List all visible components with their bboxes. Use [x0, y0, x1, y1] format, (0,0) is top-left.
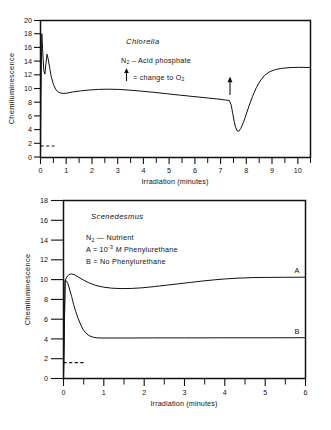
y-axis-title: Chemiluminescence: [7, 53, 16, 125]
y-tick-label: 12: [40, 255, 48, 264]
y-tick-label: 10: [40, 275, 48, 284]
svg-text:= change to O2: = change to O2: [133, 73, 185, 83]
svg-text:A = 10-3 M Phenylurethane: A = 10-3 M Phenylurethane: [86, 244, 178, 254]
gas-note: N2 – Acid phosphate: [121, 56, 191, 66]
y-tick-label: 12: [24, 70, 32, 79]
x-axis-title: Irradiation (minutes): [141, 177, 208, 186]
up-arrow-icon: [228, 77, 233, 83]
plot-frame: [64, 201, 306, 379]
chart-chlorella: 0 2 4 6 8 10 12 14 16 18 20 Chemilumines…: [7, 16, 311, 186]
y-axis-tick-labels: 0 2 4 6 8 10 12 14 16 18: [40, 196, 48, 383]
y-axis-tick-labels: 0 2 4 6 8 10 12 14 16 18 20: [24, 16, 32, 162]
chemiluminescence-figure: 0 2 4 6 8 10 12 14 16 18 20 Chemilumines…: [0, 0, 331, 430]
y-tick-label: 2: [44, 354, 48, 363]
y-tick-label: 4: [28, 125, 32, 134]
x-tick-label: 0: [62, 388, 66, 397]
y-tick-label: 18: [40, 196, 48, 205]
change-arrow-marker: [228, 77, 233, 95]
series-curve-b: [64, 281, 306, 379]
x-tick-label: 2: [90, 166, 94, 175]
y-tick-label: 14: [40, 236, 48, 245]
plot-frame: [41, 21, 311, 158]
series-curve-chlorella: [41, 34, 311, 157]
x-tick-label: 1: [64, 166, 68, 175]
species-label: Chlorella: [126, 37, 160, 46]
y-tick-label: 10: [24, 84, 32, 93]
chart-scenedesmus: 0 2 4 6 8 10 12 14 16 18 Chemiluminescen…: [23, 196, 308, 408]
x-tick-label: 2: [142, 388, 146, 397]
series-curve-a: [64, 274, 306, 379]
x-tick-label: 7: [219, 166, 223, 175]
x-tick-label: 5: [167, 166, 171, 175]
curve-a-note: A = 10-3 M Phenylurethane: [86, 244, 178, 254]
x-axis-title: Irradiation (minutes): [150, 399, 217, 408]
y-tick-label: 6: [44, 315, 48, 324]
y-tick-label: 0: [44, 374, 48, 383]
y-tick-label: 18: [24, 29, 32, 38]
figure-canvas: 0 2 4 6 8 10 12 14 16 18 20 Chemilumines…: [0, 0, 331, 430]
x-axis-tick-labels: 0 1 2 3 4 5 6: [62, 388, 308, 397]
x-tick-label: 3: [116, 166, 120, 175]
svg-text:N2 — Nutrient: N2 — Nutrient: [86, 233, 134, 243]
y-tick-label: 4: [44, 335, 48, 344]
y-tick-label: 8: [44, 295, 48, 304]
curve-label-a: A: [295, 266, 300, 275]
x-tick-label: 6: [193, 166, 197, 175]
x-axis-tick-labels: 0 1 2 3 4 5 6 7 8 9 10: [39, 166, 302, 175]
x-tick-label: 8: [244, 166, 248, 175]
y-tick-label: 16: [40, 216, 48, 225]
y-tick-label: 0: [28, 153, 32, 162]
x-tick-label: 3: [183, 388, 187, 397]
y-axis-title: Chemiluminescence: [23, 254, 32, 326]
curve-b-note: B = No Phenylurethane: [86, 257, 166, 266]
y-tick-label: 8: [28, 98, 32, 107]
y-tick-label: 6: [28, 112, 32, 121]
x-tick-label: 0: [39, 166, 43, 175]
curve-label-b: B: [295, 327, 300, 336]
x-tick-label: 4: [223, 388, 227, 397]
y-tick-label: 16: [24, 43, 32, 52]
x-tick-label: 1: [102, 388, 106, 397]
y-tick-label: 20: [24, 16, 32, 25]
species-label: Scenedesmus: [91, 212, 144, 221]
x-tick-label: 4: [141, 166, 145, 175]
y-tick-label: 14: [24, 57, 32, 66]
svg-text:N2 – Acid phosphate: N2 – Acid phosphate: [121, 56, 191, 66]
arrow-note: = change to O2: [124, 68, 185, 82]
up-arrow-icon: [124, 68, 129, 73]
x-tick-label: 10: [294, 166, 302, 175]
x-tick-label: 6: [304, 388, 308, 397]
x-tick-label: 5: [263, 388, 267, 397]
svg-text:B = No Phenylurethane: B = No Phenylurethane: [86, 257, 166, 266]
gas-note: N2 — Nutrient: [86, 233, 134, 243]
y-tick-label: 2: [28, 139, 32, 148]
y-axis-ticks: [51, 201, 64, 379]
y-axis-ticks: [34, 21, 41, 158]
x-tick-label: 9: [270, 166, 274, 175]
x-axis-ticks: [64, 379, 306, 387]
